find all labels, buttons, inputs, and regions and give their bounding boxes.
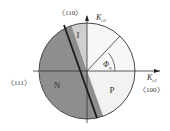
kc1-arrow-icon [154, 69, 160, 73]
direction-110-label: 〈110〉 [58, 9, 82, 17]
region-n-label: N [54, 80, 61, 90]
direction-111-label: 〈111〉 [7, 79, 31, 87]
region-p-label: P [109, 85, 114, 95]
anisotropy-diagram: I N P Φq Kc2 Kc1 〈110〉 〈111〉 〈100〉 [0, 0, 170, 131]
region-i-label: I [77, 30, 80, 40]
direction-100-label: 〈100〉 [139, 86, 164, 94]
kc2-label: Kc2 [95, 13, 107, 23]
kc1-label: Kc1 [146, 73, 157, 83]
kc2-arrow-icon [85, 15, 89, 21]
